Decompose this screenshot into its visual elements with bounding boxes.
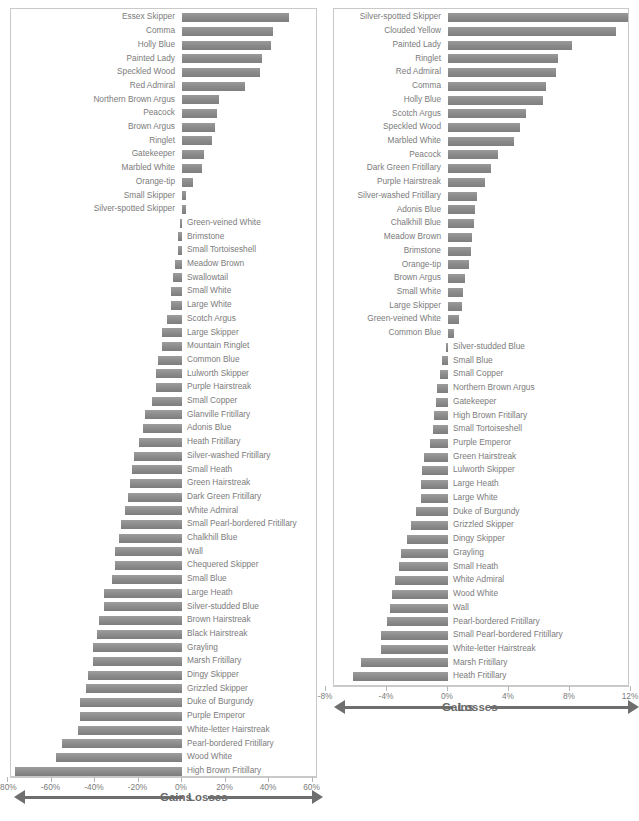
bar-row: Lulworth Skipper xyxy=(11,367,316,381)
bar-label: Small Heath xyxy=(453,560,498,574)
bar-label: Small Tortoiseshell xyxy=(187,243,256,257)
bar xyxy=(448,247,471,256)
bar xyxy=(156,383,182,392)
bar-row: Large White xyxy=(334,492,628,506)
bar xyxy=(182,109,217,118)
bar-row: Peacock xyxy=(334,148,628,162)
bar xyxy=(182,82,245,91)
bar xyxy=(121,520,182,529)
bar-label: Holly Blue xyxy=(138,38,175,52)
bar xyxy=(421,494,448,503)
bar-row: Small Pearl-bordered Fritillary xyxy=(11,518,316,532)
bar-row: High Brown Fritillary xyxy=(11,765,316,778)
bar-label: Silver-washed Fritillary xyxy=(358,189,441,203)
bar xyxy=(182,27,273,36)
bar-label: Small Copper xyxy=(187,394,237,408)
bar-label: Glanville Fritillary xyxy=(187,408,250,422)
bar-label: High Brown Fritillary xyxy=(453,409,527,423)
bar-row: Chequered Skipper xyxy=(11,559,316,573)
bar-row: Glanville Fritillary xyxy=(11,408,316,422)
bar-label: Brimstone xyxy=(187,230,224,244)
bar-label: Dingy Skipper xyxy=(187,668,239,682)
bar xyxy=(437,384,448,393)
gains-legend-label: Gains xyxy=(160,786,192,808)
bar-label: Large Skipper xyxy=(389,299,441,313)
bar xyxy=(440,370,448,379)
bar-label: Comma xyxy=(412,79,441,93)
bar-label: Silver-studded Blue xyxy=(453,340,525,354)
bar-label: Common Blue xyxy=(388,326,441,340)
bar xyxy=(448,150,498,159)
bar xyxy=(119,534,182,543)
bar-row: Marsh Fritillary xyxy=(334,656,628,670)
bar xyxy=(78,726,182,735)
bar-row: Green-veined White xyxy=(334,313,628,327)
bar xyxy=(156,369,182,378)
bar-label: Small Blue xyxy=(187,572,227,586)
bar-label: Comma xyxy=(146,24,175,38)
bar-row: Gatekeeper xyxy=(334,395,628,409)
bar xyxy=(145,410,182,419)
bar-label: Small Pearl-bordered Fritillary xyxy=(453,628,563,642)
bar xyxy=(433,425,448,434)
bar-row: Red Admiral xyxy=(334,66,628,80)
bar-label: Small Heath xyxy=(187,463,232,477)
bar-label: Wood White xyxy=(187,750,232,764)
bar xyxy=(125,506,182,515)
bar xyxy=(88,671,182,680)
bar-label: Peacock xyxy=(143,106,175,120)
bar-row: Adonis Blue xyxy=(334,203,628,217)
bar-label: Large White xyxy=(453,491,498,505)
bar-label: Grayling xyxy=(453,546,484,560)
bar xyxy=(448,164,491,173)
bar xyxy=(178,246,182,255)
bar-label: Painted Lady xyxy=(393,38,441,52)
bar-row: Green Hairstreak xyxy=(334,450,628,464)
bar-row: Small Tortoiseshell xyxy=(11,244,316,258)
bar-label: Purple Hairstreak xyxy=(187,380,251,394)
bar xyxy=(436,398,448,407)
left-chart-legend: LossesGains xyxy=(0,786,639,808)
bar xyxy=(182,136,212,145)
bar-row: Painted Lady xyxy=(11,52,316,66)
bar-label: Small Pearl-bordered Fritillary xyxy=(187,517,297,531)
bar-row: White-letter Hairstreak xyxy=(334,643,628,657)
bar-row: Small Pearl-bordered Fritillary xyxy=(334,629,628,643)
bar-label: Clouded Yellow xyxy=(384,24,441,38)
bar-row: Marbled White xyxy=(334,135,628,149)
bar-row: High Brown Fritillary xyxy=(334,409,628,423)
bar xyxy=(173,273,182,282)
bar-label: White-letter Hairstreak xyxy=(453,642,536,656)
bar-row: Silver-washed Fritillary xyxy=(11,449,316,463)
bar xyxy=(171,301,182,310)
bar xyxy=(448,123,520,132)
gains-legend-label: Gains xyxy=(442,696,474,718)
bar-label: Large Heath xyxy=(187,586,233,600)
bar-row: Purple Emperor xyxy=(334,437,628,451)
bar-row: Large Skipper xyxy=(334,299,628,313)
bar-row: Small Copper xyxy=(334,368,628,382)
bar-row: Common Blue xyxy=(334,327,628,341)
bar-row: Brown Argus xyxy=(334,272,628,286)
bar xyxy=(182,191,186,200)
bar-label: Heath Fritillary xyxy=(453,669,506,683)
bar xyxy=(448,302,462,311)
bar-label: Duke of Burgundy xyxy=(453,505,519,519)
bar xyxy=(182,41,271,50)
bar-label: Wall xyxy=(453,601,469,615)
bar-row: Wall xyxy=(334,601,628,615)
bar xyxy=(175,260,182,269)
bar-label: Large Heath xyxy=(453,477,499,491)
bar-row: Comma xyxy=(11,25,316,39)
bar xyxy=(62,739,182,748)
bar-label: Mountain Ringlet xyxy=(187,339,249,353)
bar-label: Scotch Argus xyxy=(187,312,236,326)
bar xyxy=(448,109,526,118)
bar-label: Chalkhill Blue xyxy=(391,216,441,230)
bar-row: Brown Argus xyxy=(11,121,316,135)
bar xyxy=(93,643,182,652)
bar xyxy=(424,453,448,462)
bar xyxy=(180,219,182,228)
bar xyxy=(392,590,448,599)
bar xyxy=(182,123,215,132)
